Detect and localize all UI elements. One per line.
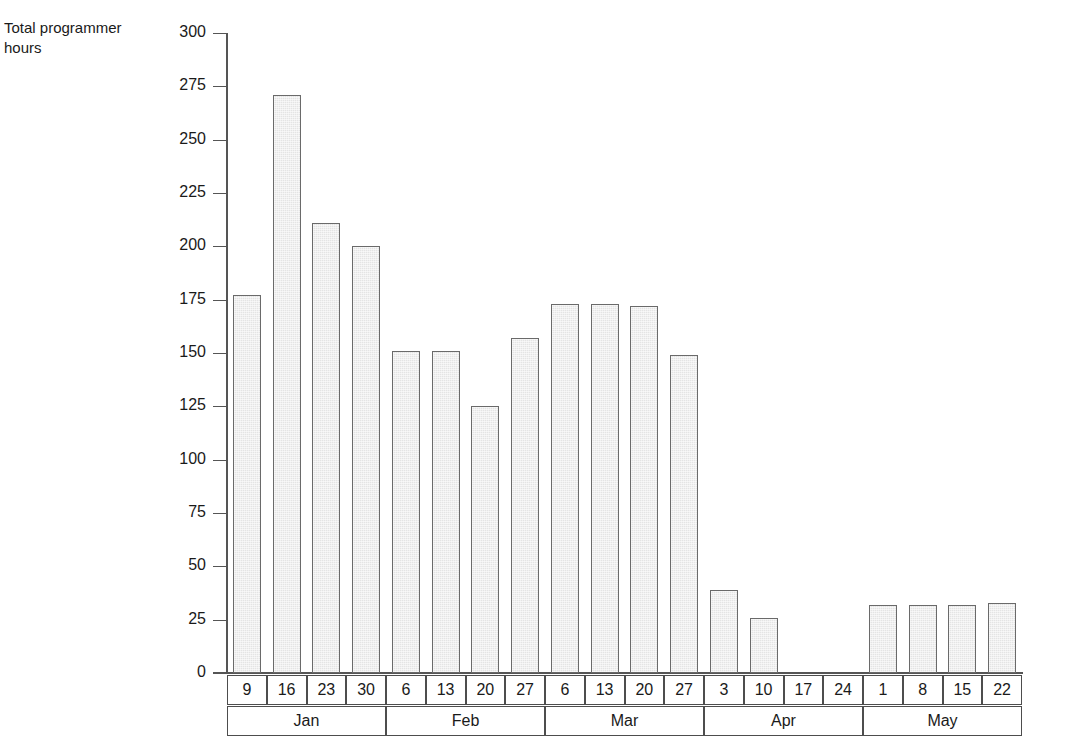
day-cell: 8 xyxy=(903,675,943,705)
y-axis-tick-label: 300 xyxy=(162,24,206,40)
day-cell: 30 xyxy=(346,675,386,705)
bar xyxy=(352,246,380,673)
plot-area xyxy=(227,33,1022,673)
month-cell: Mar xyxy=(545,706,704,736)
day-cell: 1 xyxy=(863,675,903,705)
day-cell: 10 xyxy=(744,675,784,705)
y-axis-tick xyxy=(213,86,227,87)
y-axis-tick-label: 125 xyxy=(162,397,206,413)
bar xyxy=(312,223,340,673)
bar xyxy=(511,338,539,673)
day-cell: 20 xyxy=(625,675,665,705)
month-cell: Jan xyxy=(227,706,386,736)
y-axis-tick-label: 25 xyxy=(162,611,206,627)
day-cell: 9 xyxy=(227,675,267,705)
x-axis-table: 9162330613202761320273101724181522 JanFe… xyxy=(227,675,1022,737)
month-row: JanFebMarAprMay xyxy=(227,706,1022,736)
bar xyxy=(988,603,1016,673)
y-axis-tick xyxy=(213,353,227,354)
bar xyxy=(273,95,301,673)
day-cell: 6 xyxy=(545,675,585,705)
y-axis-tick xyxy=(213,513,227,514)
bar xyxy=(591,304,619,673)
bar xyxy=(710,590,738,673)
bar xyxy=(750,618,778,673)
bar xyxy=(392,351,420,673)
y-axis-tick-label: 75 xyxy=(162,504,206,520)
bar xyxy=(909,605,937,673)
bar xyxy=(948,605,976,673)
day-cell: 23 xyxy=(307,675,347,705)
bar xyxy=(432,351,460,673)
bar xyxy=(551,304,579,673)
day-cell: 27 xyxy=(505,675,545,705)
y-axis-tick-label: 175 xyxy=(162,291,206,307)
y-axis-tick xyxy=(213,140,227,141)
y-axis-title: Total programmer hours xyxy=(4,18,164,58)
y-axis-tick xyxy=(213,193,227,194)
bar xyxy=(471,406,499,673)
y-axis-tick xyxy=(213,300,227,301)
y-axis-tick xyxy=(213,406,227,407)
bar xyxy=(869,605,897,673)
day-cell: 27 xyxy=(664,675,704,705)
y-axis-tick-label: 275 xyxy=(162,77,206,93)
day-cell: 13 xyxy=(585,675,625,705)
y-axis-tick xyxy=(213,460,227,461)
y-axis-tick-label: 50 xyxy=(162,557,206,573)
bar xyxy=(670,355,698,673)
y-axis-tick-label: 0 xyxy=(162,664,206,680)
y-axis-tick-label: 100 xyxy=(162,451,206,467)
bar xyxy=(630,306,658,673)
day-row: 9162330613202761320273101724181522 xyxy=(227,675,1022,705)
day-cell: 13 xyxy=(426,675,466,705)
day-cell: 16 xyxy=(267,675,307,705)
y-axis-tick xyxy=(213,246,227,247)
y-axis-tick xyxy=(213,566,227,567)
y-axis-tick xyxy=(213,673,227,674)
y-axis-tick xyxy=(213,620,227,621)
y-axis-tick-label: 225 xyxy=(162,184,206,200)
day-cell: 17 xyxy=(784,675,824,705)
y-axis-tick-label: 250 xyxy=(162,131,206,147)
y-axis-tick xyxy=(213,33,227,34)
y-axis-tick-label: 200 xyxy=(162,237,206,253)
month-cell: Apr xyxy=(704,706,863,736)
bar xyxy=(233,295,261,673)
day-cell: 3 xyxy=(704,675,744,705)
day-cell: 24 xyxy=(823,675,863,705)
day-cell: 6 xyxy=(386,675,426,705)
day-cell: 22 xyxy=(982,675,1022,705)
day-cell: 15 xyxy=(943,675,983,705)
month-cell: Feb xyxy=(386,706,545,736)
month-cell: May xyxy=(863,706,1022,736)
y-axis-tick-label: 150 xyxy=(162,344,206,360)
day-cell: 20 xyxy=(466,675,506,705)
